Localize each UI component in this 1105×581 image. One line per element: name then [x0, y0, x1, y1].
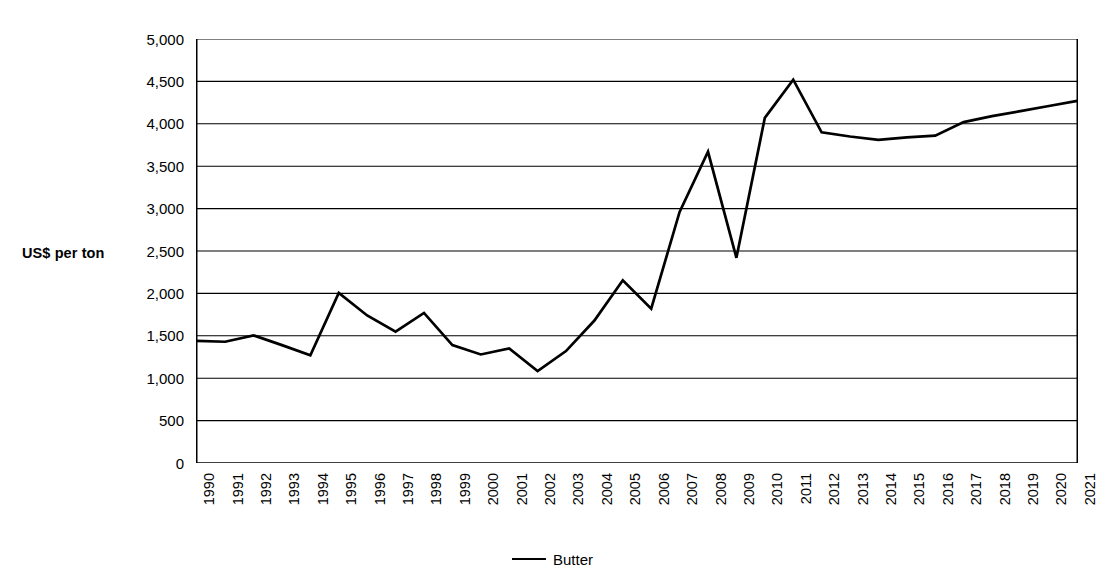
- y-tick-label: 3,500: [124, 159, 184, 174]
- x-tick-label: 2002: [543, 473, 558, 505]
- y-tick-label: 4,000: [124, 116, 184, 131]
- y-tick-label: 2,500: [124, 244, 184, 259]
- x-tick-label-text: 2003: [571, 473, 586, 505]
- plot-area: [196, 39, 1078, 463]
- x-tick-label: 2016: [941, 473, 956, 505]
- y-tick-label: 0: [124, 456, 184, 471]
- line-chart: US$ per ton 05001,0001,5002,0002,5003,00…: [0, 0, 1105, 581]
- x-tick-label-text: 2013: [856, 473, 871, 505]
- x-tick-label-text: 1994: [316, 473, 331, 505]
- x-tick-label: 2010: [770, 473, 785, 505]
- x-tick-label-text: 1995: [344, 473, 359, 505]
- legend-line-swatch: [512, 558, 546, 560]
- x-tick-label-text: 2014: [884, 473, 899, 505]
- x-tick-label-text: 1991: [231, 473, 246, 505]
- x-tick-label: 2014: [884, 473, 899, 505]
- x-tick-label-text: 1998: [429, 473, 444, 505]
- x-tick-label: 2020: [1054, 473, 1069, 505]
- x-tick-label: 2007: [685, 473, 700, 505]
- x-tick-label: 1990: [202, 473, 217, 505]
- x-tick-label: 1996: [373, 473, 388, 505]
- y-axis-title: US$ per ton: [22, 245, 104, 261]
- y-tick-label: 4,500: [124, 74, 184, 89]
- x-axis-tick-labels: 1990199119921993199419951996199719981999…: [196, 463, 1078, 543]
- x-tick-label: 2012: [827, 473, 842, 505]
- x-tick-label: 2017: [969, 473, 984, 505]
- x-tick-label: 2009: [742, 473, 757, 505]
- x-tick-label-text: 2001: [515, 473, 530, 505]
- legend-entry-butter: Butter: [512, 552, 593, 567]
- x-tick-label-text: 1996: [373, 473, 388, 505]
- x-tick-label: 1991: [231, 473, 246, 505]
- y-tick-label: 3,000: [124, 201, 184, 216]
- y-tick-label: 1,000: [124, 371, 184, 386]
- x-tick-label-text: 2011: [799, 473, 814, 504]
- y-tick-label: 2,000: [124, 286, 184, 301]
- x-tick-label-text: 2018: [998, 473, 1013, 505]
- x-tick-label: 1994: [316, 473, 331, 505]
- x-tick-label-text: 2020: [1054, 473, 1069, 505]
- x-tick-label: 2008: [714, 473, 729, 505]
- x-tick-label: 1993: [287, 473, 302, 505]
- plot-svg: [196, 39, 1078, 463]
- x-tick-label: 2011: [799, 473, 814, 504]
- x-tick-label: 1995: [344, 473, 359, 505]
- x-tick-label-text: 2005: [628, 473, 643, 505]
- x-tick-label: 1998: [429, 473, 444, 505]
- x-tick-label: 1997: [401, 473, 416, 505]
- chart-legend: Butter: [0, 546, 1105, 567]
- y-tick-label: 1,500: [124, 328, 184, 343]
- x-tick-label-text: 2006: [657, 473, 672, 505]
- y-axis-tick-labels: 05001,0001,5002,0002,5003,0003,5004,0004…: [122, 0, 184, 581]
- y-tick-label: 500: [124, 413, 184, 428]
- x-tick-label-text: 1993: [287, 473, 302, 505]
- x-tick-label-text: 1997: [401, 473, 416, 505]
- x-tick-label-text: 2021: [1083, 473, 1098, 505]
- x-tick-label: 1992: [259, 473, 274, 505]
- x-tick-label-text: 2007: [685, 473, 700, 505]
- gridlines: [196, 39, 1077, 463]
- x-tick-label-text: 2002: [543, 473, 558, 505]
- x-tick-label-text: 2017: [969, 473, 984, 505]
- legend-label: Butter: [553, 552, 593, 567]
- x-tick-label-text: 1990: [202, 473, 217, 505]
- x-tick-label-text: 2015: [912, 473, 927, 505]
- x-tick-label-text: 2019: [1026, 473, 1041, 505]
- x-tick-label-text: 1999: [458, 473, 473, 505]
- x-tick-label: 2005: [628, 473, 643, 505]
- x-tick-label-text: 2004: [600, 473, 615, 505]
- x-tick-label-text: 2009: [742, 473, 757, 505]
- x-tick-label-text: 2010: [770, 473, 785, 505]
- x-tick-label: 2003: [571, 473, 586, 505]
- x-tick-label: 2000: [486, 473, 501, 505]
- x-tick-label: 2015: [912, 473, 927, 505]
- x-tick-label-text: 2012: [827, 473, 842, 505]
- x-tick-label: 2019: [1026, 473, 1041, 505]
- x-tick-label-text: 1992: [259, 473, 274, 505]
- x-tick-label: 2001: [515, 473, 530, 505]
- x-tick-label-text: 2016: [941, 473, 956, 505]
- x-tick-label-text: 2008: [714, 473, 729, 505]
- y-tick-label: 5,000: [124, 32, 184, 47]
- x-tick-label: 2018: [998, 473, 1013, 505]
- x-tick-label: 2004: [600, 473, 615, 505]
- x-tick-label: 2013: [856, 473, 871, 505]
- x-tick-label-text: 2000: [486, 473, 501, 505]
- x-tick-label: 1999: [458, 473, 473, 505]
- x-tick-label: 2006: [657, 473, 672, 505]
- x-tick-label: 2021: [1083, 473, 1098, 505]
